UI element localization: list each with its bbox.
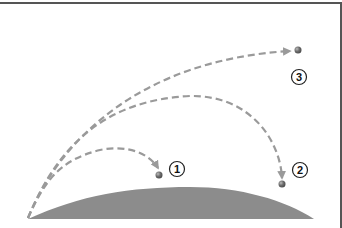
- trajectory-labels: 123: [170, 70, 308, 178]
- projectile-ball-1: [156, 172, 163, 179]
- projectile-ball-3: [295, 47, 302, 54]
- trajectory-diagram: 123: [0, 0, 342, 228]
- svg-text:2: 2: [297, 164, 303, 176]
- label-badge-2: 2: [293, 163, 308, 178]
- diagram-frame: 123: [0, 0, 342, 228]
- projectile-ball-2: [279, 181, 286, 188]
- label-badge-1: 1: [170, 162, 185, 177]
- svg-text:1: 1: [174, 163, 180, 175]
- ground-earth: [28, 187, 314, 219]
- label-badge-3: 3: [292, 70, 307, 85]
- svg-text:3: 3: [296, 71, 302, 83]
